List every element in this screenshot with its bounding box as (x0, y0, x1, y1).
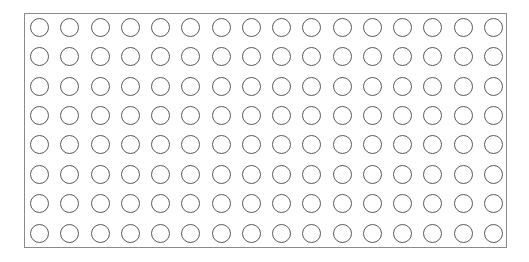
grid-circle (242, 47, 261, 66)
grid-circle (484, 194, 503, 213)
grid-circle (302, 47, 321, 66)
grid-circle (423, 135, 442, 154)
grid-circle (454, 106, 473, 125)
grid-circle (333, 224, 352, 243)
grid-circle (121, 106, 140, 125)
grid-circle (151, 224, 170, 243)
grid-circle (91, 18, 110, 37)
grid-circle (333, 77, 352, 96)
grid-circle (151, 194, 170, 213)
grid-circle (242, 135, 261, 154)
grid-circle (302, 106, 321, 125)
grid-circle (423, 165, 442, 184)
grid-circle (484, 165, 503, 184)
grid-circle (454, 165, 473, 184)
grid-circle (151, 77, 170, 96)
grid-circle (151, 106, 170, 125)
grid-circle (272, 77, 291, 96)
grid-circle (272, 194, 291, 213)
grid-circle (302, 165, 321, 184)
grid-circle (363, 77, 382, 96)
grid-circle (242, 165, 261, 184)
grid-circle (60, 194, 79, 213)
grid-circle (181, 77, 200, 96)
grid-circle (91, 165, 110, 184)
grid-circle (272, 47, 291, 66)
grid-circle (91, 47, 110, 66)
grid-circle (30, 135, 49, 154)
grid-circle (363, 18, 382, 37)
grid-circle (30, 194, 49, 213)
grid-circle (423, 77, 442, 96)
grid-circle (484, 106, 503, 125)
grid-circle (212, 135, 231, 154)
grid-circle (302, 18, 321, 37)
grid-circle (363, 106, 382, 125)
grid-circle (302, 135, 321, 154)
grid-circle (363, 224, 382, 243)
grid-circle (242, 224, 261, 243)
grid-circle (60, 165, 79, 184)
grid-circle (242, 18, 261, 37)
grid-circle (363, 47, 382, 66)
grid-circle (484, 47, 503, 66)
grid-circle (454, 18, 473, 37)
grid-circle (423, 47, 442, 66)
grid-circle (30, 47, 49, 66)
grid-circle (302, 77, 321, 96)
grid-circle (242, 106, 261, 125)
grid-circle (423, 224, 442, 243)
grid-circle (393, 135, 412, 154)
grid-circle (181, 224, 200, 243)
grid-circle (242, 77, 261, 96)
grid-circle (484, 224, 503, 243)
grid-circle (60, 106, 79, 125)
grid-circle (212, 165, 231, 184)
grid-circle (60, 135, 79, 154)
grid-circle (484, 77, 503, 96)
grid-circle (121, 77, 140, 96)
grid-circle (60, 224, 79, 243)
grid-circle (181, 106, 200, 125)
grid-circle (423, 18, 442, 37)
grid-circle (272, 165, 291, 184)
grid-circle (393, 18, 412, 37)
grid-circle (333, 47, 352, 66)
grid-circle (91, 224, 110, 243)
grid-circle (181, 135, 200, 154)
grid-circle (91, 77, 110, 96)
grid-circle (333, 165, 352, 184)
grid-circle (121, 224, 140, 243)
grid-circle (333, 106, 352, 125)
grid-circle (272, 135, 291, 154)
grid-circle (60, 47, 79, 66)
grid-circle (91, 106, 110, 125)
grid-circle (363, 165, 382, 184)
grid-circle (121, 47, 140, 66)
grid-circle (212, 18, 231, 37)
grid-circle (212, 77, 231, 96)
grid-circle (212, 106, 231, 125)
grid-circle (151, 18, 170, 37)
grid-circle (393, 224, 412, 243)
grid-circle (212, 224, 231, 243)
grid-circle (454, 135, 473, 154)
grid-circle (151, 47, 170, 66)
grid-circle (423, 106, 442, 125)
grid-circle (242, 194, 261, 213)
grid-circle (454, 77, 473, 96)
grid-circle (302, 194, 321, 213)
grid-circle (121, 135, 140, 154)
grid-circle (454, 47, 473, 66)
grid-circle (333, 135, 352, 154)
grid-circle (181, 47, 200, 66)
grid-circle (181, 165, 200, 184)
grid-circle (181, 194, 200, 213)
grid-circle (30, 106, 49, 125)
grid-circle (151, 165, 170, 184)
grid-frame (24, 13, 507, 248)
grid-circle (363, 135, 382, 154)
grid-circle (121, 18, 140, 37)
grid-circle (393, 47, 412, 66)
grid-circle (151, 135, 170, 154)
